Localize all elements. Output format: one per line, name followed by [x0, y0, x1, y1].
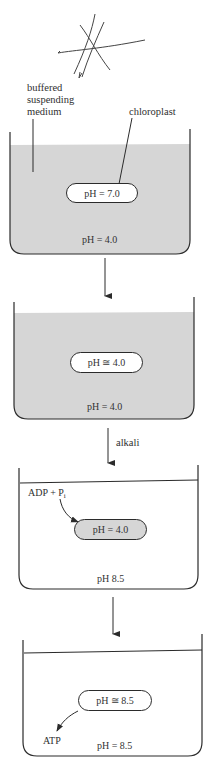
chloroplast-3-ph: pH = 4.0	[93, 524, 128, 535]
label-line-1: buffered	[27, 82, 74, 94]
chloroplast-2-ph: pH ≅ 4.0	[88, 357, 126, 368]
chloroplast-sketch-icon	[58, 14, 145, 78]
label-line-3: medium	[27, 106, 74, 118]
adp-text: ADP + P	[28, 487, 64, 498]
medium-1-ph: pH = 4.0	[82, 234, 117, 245]
label-line-2: suspending	[27, 94, 74, 106]
chloroplast-2: pH ≅ 4.0	[70, 352, 143, 373]
chloroplast-1-ph: pH = 7.0	[84, 188, 119, 199]
chloroplast-3: pH = 4.0	[74, 519, 147, 540]
pi-subscript: i	[64, 492, 66, 500]
medium-2-ph: pH = 4.0	[87, 401, 122, 412]
atp-label: ATP	[43, 735, 61, 747]
chloroplast-1: pH = 7.0	[66, 183, 138, 203]
chloroplast-4-ph: pH ≅ 8.5	[96, 695, 134, 706]
chloroplast-label: chloroplast	[129, 106, 176, 118]
buffered-medium-label: buffered suspending medium	[27, 82, 74, 118]
medium-3-ph: pH 8.5	[97, 573, 124, 584]
chloroplast-4: pH ≅ 8.5	[78, 690, 152, 711]
adp-pi-label: ADP + Pi	[28, 487, 66, 502]
medium-4-ph: pH = 8.5	[97, 740, 132, 751]
alkali-label: alkali	[116, 437, 139, 449]
